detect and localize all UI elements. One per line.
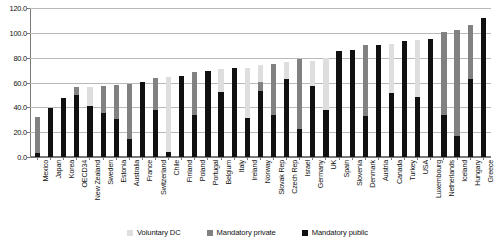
x-axis-tick-label: Korea [67, 142, 76, 160]
x-label-slot: Canada [385, 160, 398, 222]
bar-stack[interactable] [468, 25, 473, 157]
bar-segment-mandatory-public [428, 39, 433, 157]
x-label-slot: Netherlands [437, 160, 450, 222]
legend-label: Mandatory private [217, 228, 276, 237]
bar-segment-voluntary-dc [389, 44, 394, 93]
x-label-slot: Germany [306, 160, 319, 222]
x-axis-tick-label: Iceland [460, 138, 469, 160]
x-axis-tick-label: Luxembourg [434, 122, 443, 160]
bar-slot [254, 8, 267, 157]
x-axis-tick-label: Portugal [211, 135, 220, 160]
x-axis-tick-label: Denmark [368, 132, 377, 160]
legend-swatch-icon [127, 230, 133, 236]
bar-segment-mandatory-private [468, 25, 473, 80]
bar-segment-mandatory-public [336, 51, 341, 157]
y-axis-tick-label: 0.0 [17, 153, 27, 162]
x-axis-tick-label: Australia [132, 134, 141, 160]
x-axis-tick-label: Slovak Rep [277, 125, 286, 160]
bar-segment-mandatory-private [35, 117, 40, 153]
bar-slot [31, 8, 44, 157]
bar-segment-mandatory-private [101, 86, 106, 113]
x-label-slot: Spain [333, 160, 346, 222]
legend-label: Voluntary DC [137, 228, 181, 237]
x-label-slot: Greece [477, 160, 490, 222]
x-axis-tick-label: Belgium [224, 135, 233, 160]
x-label-slot: Australia [123, 160, 136, 222]
x-label-slot: Denmark [359, 160, 372, 222]
x-axis-tick-label-text: Greece [486, 160, 495, 182]
x-label-slot: Korea [57, 160, 70, 222]
x-label-slot: Sweden [97, 160, 110, 222]
bar-segment-mandatory-private [297, 59, 302, 129]
bar-stack[interactable] [310, 61, 315, 157]
x-axis-tick-label: Chile [172, 145, 181, 160]
stacked-bar-chart: 0.020.040.060.080.0100.0120.0 MexicoJapa… [0, 0, 495, 249]
x-axis-tick-label: Mexico [41, 138, 50, 160]
x-axis-tick-label: Czech Rep [290, 126, 299, 160]
y-axis-tick-label: 40.0 [13, 103, 27, 112]
y-axis-tick-label: 80.0 [13, 53, 27, 62]
bar-slot [241, 8, 254, 157]
bar-segment-voluntary-dc [415, 40, 420, 98]
x-axis-tick-label: Austria [381, 139, 390, 160]
bar-segment-mandatory-private [114, 85, 119, 119]
x-axis-tick-label: Switzerland [159, 125, 168, 160]
bar-stack[interactable] [350, 50, 355, 157]
x-axis-tick-label: Japan [54, 141, 63, 160]
x-label-slot: Poland [188, 160, 201, 222]
bar-slot [175, 8, 188, 157]
bar-stack[interactable] [428, 39, 433, 157]
x-label-slot: Chile [162, 160, 175, 222]
bar-segment-mandatory-private [192, 72, 197, 115]
bar-slot [398, 8, 411, 157]
bar-slot [385, 8, 398, 157]
x-label-slot: Slovenia [346, 160, 359, 222]
bar-slot [57, 8, 70, 157]
x-axis-tick-label: Italy [237, 148, 246, 160]
x-label-slot: New Zealand [83, 160, 96, 222]
bar-segment-mandatory-private [441, 32, 446, 115]
x-axis-tick-label: France [145, 139, 154, 160]
legend-item[interactable]: Mandatory private [207, 228, 276, 237]
x-axis-tick-label: Greece [486, 138, 495, 160]
x-label-slot: Estonia [110, 160, 123, 222]
bar-slot [188, 8, 201, 157]
x-axis-tick-label: New Zealand [93, 120, 102, 160]
legend-swatch-icon [207, 230, 213, 236]
x-axis-tick-label: Turkey [408, 140, 417, 161]
y-axis-tick-label: 100.0 [10, 28, 28, 37]
x-axis-tick-label: USA [421, 146, 430, 160]
x-label-slot: OECD34 [70, 160, 83, 222]
legend-item[interactable]: Mandatory public [302, 228, 368, 237]
x-axis-tick-label: Israel [303, 144, 312, 160]
bar-slot [411, 8, 424, 157]
x-label-slot: Italy [228, 160, 241, 222]
x-axis-tick-label: Canada [395, 136, 404, 160]
x-label-slot: Norway [254, 160, 267, 222]
chart-legend: Voluntary DCMandatory privateMandatory p… [0, 228, 495, 237]
bar-segment-voluntary-dc [87, 87, 92, 106]
bar-segment-mandatory-private [153, 78, 158, 110]
x-label-slot: Ireland [241, 160, 254, 222]
x-label-slot: UK [319, 160, 332, 222]
bar-stack[interactable] [35, 117, 40, 157]
x-label-slot: Israel [293, 160, 306, 222]
x-label-slot: USA [411, 160, 424, 222]
x-axis-tick-label: OECD34 [80, 132, 89, 160]
x-axis-tick-label: Finland [185, 138, 194, 160]
x-label-slot: Austria [372, 160, 385, 222]
bar-segment-mandatory-private [74, 87, 79, 94]
bar-segment-mandatory-private [271, 64, 276, 115]
x-label-slot: Iceland [451, 160, 464, 222]
x-label-slot: Turkey [398, 160, 411, 222]
bar-segment-voluntary-dc [284, 62, 289, 79]
y-axis-tick-label: 120.0 [10, 4, 28, 13]
x-axis-tick-label: Hungary [473, 134, 482, 160]
x-label-slot: Mexico [31, 160, 44, 222]
legend-item[interactable]: Voluntary DC [127, 228, 181, 237]
bar-segment-mandatory-private [363, 45, 368, 116]
x-axis-tick-label: Netherlands [447, 123, 456, 160]
bar-segment-voluntary-dc [218, 69, 223, 92]
bar-stack[interactable] [336, 51, 341, 157]
x-axis-tick-label: UK [329, 150, 338, 160]
